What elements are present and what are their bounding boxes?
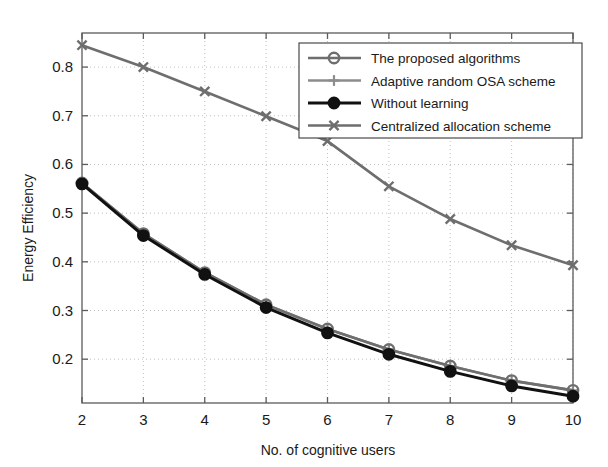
data-point-marker-circle-filled — [76, 178, 87, 189]
y-tick-label: 0.5 — [52, 204, 73, 221]
y-tick-label: 0.6 — [52, 155, 73, 172]
x-tick-label: 3 — [139, 411, 147, 428]
x-tick-label: 10 — [565, 411, 582, 428]
legend-item-label: The proposed algorithms — [371, 51, 521, 66]
x-tick-label: 5 — [262, 411, 270, 428]
y-axis-title: Energy Efficiency — [20, 174, 36, 282]
x-tick-label: 2 — [78, 411, 86, 428]
data-point-marker-circle-filled — [506, 380, 517, 391]
y-tick-label: 0.4 — [52, 253, 73, 270]
data-point-marker-circle-filled — [199, 269, 210, 280]
y-tick-label: 0.2 — [52, 350, 73, 367]
data-point-marker-circle-filled — [445, 366, 456, 377]
chart-figure: 23456789100.20.30.40.50.60.70.8 No. of c… — [0, 0, 608, 467]
data-point-marker-circle-filled — [328, 97, 339, 108]
legend-item-label: Without learning — [371, 96, 469, 111]
x-tick-label: 4 — [201, 411, 209, 428]
chart-legend[interactable]: The proposed algorithmsAdaptive random O… — [299, 43, 582, 138]
y-tick-label: 0.7 — [52, 107, 73, 124]
legend-item-label: Adaptive random OSA scheme — [371, 74, 556, 89]
x-tick-label: 9 — [507, 411, 515, 428]
x-axis-title: No. of cognitive users — [261, 442, 396, 458]
x-tick-label: 7 — [385, 411, 393, 428]
data-point-marker-circle-filled — [261, 302, 272, 313]
y-tick-label: 0.3 — [52, 302, 73, 319]
data-point-marker-circle-filled — [383, 349, 394, 360]
y-tick-label: 0.8 — [52, 58, 73, 75]
x-tick-label: 6 — [323, 411, 331, 428]
legend-item-2[interactable]: Without learning — [308, 96, 469, 111]
x-tick-label: 8 — [446, 411, 454, 428]
data-point-marker-circle-filled — [138, 230, 149, 241]
energy-efficiency-line-chart: 23456789100.20.30.40.50.60.70.8 No. of c… — [0, 0, 608, 467]
legend-item-label: Centralized allocation scheme — [371, 119, 551, 134]
data-point-marker-circle-filled — [322, 327, 333, 338]
data-point-marker-circle-filled — [567, 391, 578, 402]
